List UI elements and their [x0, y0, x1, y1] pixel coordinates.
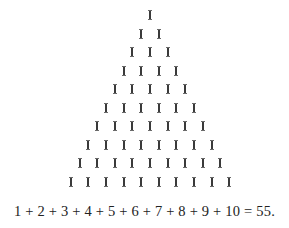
- stroke-mark: [140, 177, 142, 187]
- stroke-mark: [114, 158, 116, 168]
- stroke-mark: [175, 140, 177, 150]
- stroke-mark: [158, 140, 160, 150]
- stroke-mark: [193, 103, 195, 113]
- stroke-mark: [193, 177, 195, 187]
- stroke-mark: [140, 66, 142, 76]
- stroke-mark: [167, 121, 169, 131]
- stroke-mark: [167, 158, 169, 168]
- stroke-mark: [158, 29, 160, 39]
- stroke-mark: [123, 103, 125, 113]
- stroke-mark: [123, 177, 125, 187]
- stroke-mark: [114, 84, 116, 94]
- stroke-mark: [202, 158, 204, 168]
- stroke-mark: [149, 158, 151, 168]
- stroke-mark: [114, 121, 116, 131]
- stroke-mark: [123, 66, 125, 76]
- stroke-mark: [96, 158, 98, 168]
- stroke-mark: [219, 158, 221, 168]
- stroke-mark: [149, 10, 151, 20]
- stroke-mark: [184, 84, 186, 94]
- stroke-mark: [184, 158, 186, 168]
- stroke-mark: [131, 121, 133, 131]
- stroke-mark: [140, 140, 142, 150]
- triangular-number-figure: [0, 0, 289, 195]
- stroke-mark: [175, 66, 177, 76]
- stroke-mark: [131, 158, 133, 168]
- stroke-mark: [140, 29, 142, 39]
- stroke-mark: [184, 121, 186, 131]
- stroke-mark: [123, 140, 125, 150]
- stroke-mark: [193, 140, 195, 150]
- stroke-mark: [149, 121, 151, 131]
- stroke-mark: [87, 140, 89, 150]
- stroke-mark: [149, 84, 151, 94]
- stroke-mark: [167, 84, 169, 94]
- stroke-mark: [131, 84, 133, 94]
- stroke-mark: [158, 66, 160, 76]
- stroke-mark: [105, 103, 107, 113]
- stroke-mark: [158, 103, 160, 113]
- stroke-mark: [87, 177, 89, 187]
- stroke-mark: [175, 103, 177, 113]
- stroke-mark: [175, 177, 177, 187]
- stroke-mark: [211, 177, 213, 187]
- stroke-mark: [105, 140, 107, 150]
- stroke-mark: [202, 121, 204, 131]
- stroke-mark: [96, 121, 98, 131]
- stroke-mark: [79, 158, 81, 168]
- sum-equation: 1 + 2 + 3 + 4 + 5 + 6 + 7 + 8 + 9 + 10 =…: [0, 203, 289, 220]
- stroke-mark: [149, 47, 151, 57]
- stroke-mark: [167, 47, 169, 57]
- stroke-mark: [211, 140, 213, 150]
- stroke-mark: [105, 177, 107, 187]
- stroke-mark: [70, 177, 72, 187]
- stroke-mark: [140, 103, 142, 113]
- stroke-mark: [131, 47, 133, 57]
- stroke-mark: [158, 177, 160, 187]
- stroke-mark: [228, 177, 230, 187]
